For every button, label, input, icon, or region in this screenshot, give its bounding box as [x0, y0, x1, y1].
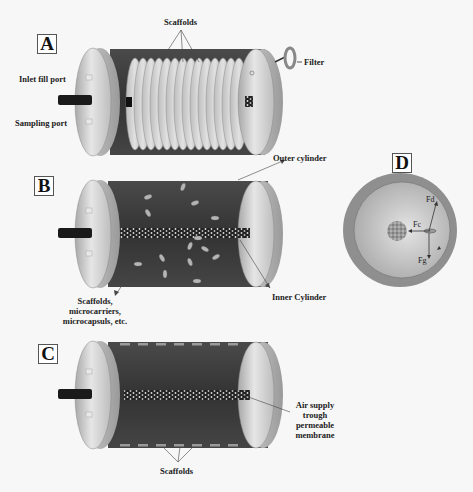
label-outer-cylinder: Outer cylinder	[273, 153, 326, 163]
label-inlet-fill-port: Inlet fill port	[19, 74, 66, 84]
panel-a-reactor	[58, 30, 302, 156]
panel-c-reactor	[58, 341, 290, 462]
panel-letter-d: D	[392, 153, 412, 173]
label-scaffolds-a: Scaffolds	[164, 17, 197, 27]
label-filter: Filter	[304, 57, 324, 67]
label-sampling-port: Sampling port	[15, 118, 67, 128]
label-fg: Fg	[418, 256, 426, 265]
panel-letter-b: B	[34, 176, 54, 196]
label-air-supply: Air supply trough permeable membrane	[285, 400, 345, 440]
bioreactor-diagram	[0, 0, 473, 492]
panel-letter-a: A	[37, 34, 57, 54]
panel-d-rotation-diagram	[343, 173, 457, 287]
label-scaffolds-c: Scaffolds	[160, 466, 193, 476]
label-scaffolds-microcarriers: Scaffolds, microcarriers, microcapsuls, …	[50, 296, 140, 326]
label-fc: Fc	[413, 220, 421, 229]
panel-b-reactor	[58, 160, 285, 296]
label-fd: Fd	[426, 195, 434, 204]
panel-letter-c: C	[38, 344, 58, 364]
label-inner-cylinder: Inner Cylinder	[272, 292, 326, 302]
